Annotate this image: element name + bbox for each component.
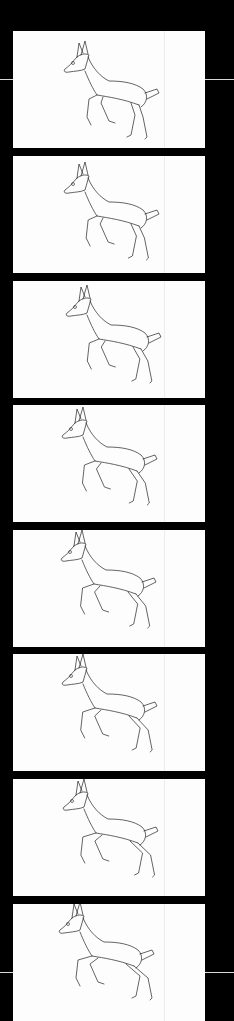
deer-drawing-icon (13, 405, 205, 522)
animation-frame-7 (13, 779, 205, 896)
registration-line-right-bottom (205, 972, 234, 973)
deer-drawing-icon (13, 654, 205, 771)
deer-drawing-icon (13, 156, 205, 273)
animation-frame-3 (13, 281, 205, 398)
deer-drawing-icon (13, 779, 205, 896)
animation-frame-5 (13, 530, 205, 647)
registration-line-left-bottom (0, 972, 13, 973)
animation-frame-1 (13, 31, 205, 148)
animation-frame-8 (13, 904, 205, 1021)
animation-frame-6 (13, 654, 205, 771)
registration-line-right-top (205, 79, 234, 80)
deer-drawing-icon (13, 530, 205, 647)
deer-drawing-icon (13, 281, 205, 398)
deer-drawing-icon (13, 904, 205, 1021)
registration-line-left-top (0, 79, 13, 80)
animation-frame-4 (13, 405, 205, 522)
deer-drawing-icon (13, 31, 205, 148)
animation-frame-2 (13, 156, 205, 273)
